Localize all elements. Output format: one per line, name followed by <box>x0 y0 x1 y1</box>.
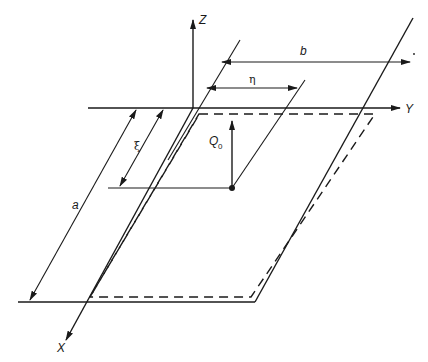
load-subscript: 0 <box>218 142 223 151</box>
b-label: b <box>300 44 307 58</box>
z-axis-label: Z <box>198 13 207 27</box>
a-label: a <box>72 198 79 212</box>
eta-extension-line <box>232 80 305 188</box>
a-dimension-line <box>30 110 136 300</box>
plate-diagram: Z Y X b η ξ a Q 0 <box>0 0 428 362</box>
mark-dot <box>413 53 415 55</box>
plate-right-edge <box>255 18 413 302</box>
load-label: Q <box>209 134 218 148</box>
x-axis <box>66 108 193 340</box>
load-point <box>229 185 235 191</box>
eta-label: η <box>249 73 256 86</box>
x-axis-label: X <box>56 341 66 355</box>
b-extension-line <box>168 40 240 160</box>
xi-label: ξ <box>134 140 140 153</box>
y-axis-label: Y <box>405 102 414 116</box>
